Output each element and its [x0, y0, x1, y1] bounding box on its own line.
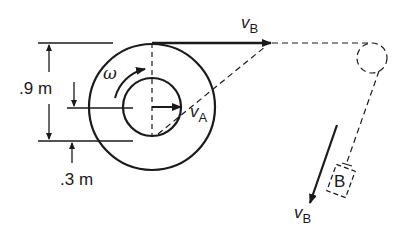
dashed-cable-to-block — [347, 71, 379, 162]
va-label-main: v — [190, 102, 199, 121]
vb-bottom-vector-arrow — [310, 125, 337, 203]
vb-top-label: vB — [241, 13, 258, 33]
vb-top-label-main: v — [241, 13, 250, 32]
block-hook — [342, 163, 352, 166]
va-label: vA — [190, 102, 207, 122]
pulley-dashed-circle — [357, 43, 387, 73]
omega-label: ω — [103, 63, 117, 83]
omega-rotation-arrow — [115, 69, 145, 98]
inner-diameter-label: .3 m — [60, 170, 93, 190]
outer-diameter-label: .9 m — [19, 79, 52, 99]
vb-bottom-label: vB — [294, 203, 311, 223]
vb-bottom-label-main: v — [294, 203, 303, 222]
vb-top-label-sub: B — [250, 21, 259, 36]
vb-bottom-label-sub: B — [303, 211, 312, 226]
va-label-sub: A — [199, 110, 208, 125]
block-b-label: B — [334, 172, 345, 192]
